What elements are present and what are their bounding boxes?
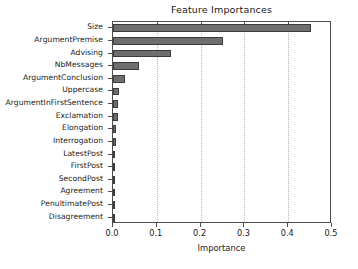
y-tick-label-size: Size	[87, 23, 103, 31]
plot-area	[112, 21, 331, 223]
y-tick-label-agreement: Agreement	[60, 187, 103, 195]
bar-interrogation	[113, 138, 116, 146]
bar-row	[113, 189, 330, 197]
bar-penultimatepost	[113, 201, 115, 209]
bar-uppercase	[113, 88, 119, 96]
bars-layer	[113, 22, 330, 222]
bar-elongation	[113, 125, 116, 133]
x-tick-label-0.3: 0.3	[237, 228, 250, 238]
x-tick-mark	[200, 223, 201, 227]
bar-advising	[113, 50, 171, 58]
bar-argumentpremise	[113, 37, 223, 45]
bar-row	[113, 201, 330, 209]
bar-row	[113, 163, 330, 171]
x-tick-mark-top	[288, 22, 289, 25]
feature-importances-figure: Feature Importances SizeArgumentPremiseA…	[0, 0, 358, 269]
y-tick-label-latestpost: LatestPost	[63, 150, 103, 158]
x-tick-label-0.1: 0.1	[149, 228, 162, 238]
y-axis-labels: SizeArgumentPremiseAdvisingNbMessagesArg…	[0, 21, 108, 223]
bar-secondpost	[113, 176, 115, 184]
x-tick-mark	[112, 223, 113, 227]
x-tick-mark-top	[201, 22, 202, 25]
y-tick-label-elongation: Elongation	[62, 124, 103, 132]
x-tick-mark-top	[157, 22, 158, 25]
bar-row	[113, 100, 330, 108]
bar-row	[113, 125, 330, 133]
y-tick-label-argumentconclusion: ArgumentConclusion	[23, 74, 103, 82]
bar-agreement	[113, 189, 115, 197]
x-axis-label: Importance	[112, 243, 331, 253]
y-tick-label-interrogation: Interrogation	[53, 137, 103, 145]
bar-row	[113, 75, 330, 83]
bar-firstpost	[113, 163, 115, 171]
y-tick-label-argumentinfirstsentence: ArgumentInFirstSentence	[6, 99, 103, 107]
bar-row	[113, 138, 330, 146]
x-tick-mark	[243, 223, 244, 227]
bar-row	[113, 176, 330, 184]
bar-row	[113, 214, 330, 222]
bar-row	[113, 37, 330, 45]
x-tick-label-0.2: 0.2	[193, 228, 206, 238]
y-tick-label-penultimatepost: PenultimatePost	[41, 200, 103, 208]
bar-exclamation	[113, 113, 118, 121]
y-tick-label-argumentpremise: ArgumentPremise	[34, 36, 103, 44]
bar-latestpost	[113, 151, 115, 159]
bar-row	[113, 88, 330, 96]
bar-nbmessages	[113, 62, 139, 70]
y-tick-label-firstpost: FirstPost	[71, 162, 103, 170]
x-tick-label-0.5: 0.5	[324, 228, 337, 238]
y-tick-label-nbmessages: NbMessages	[55, 61, 103, 69]
x-tick-mark	[156, 223, 157, 227]
x-tick-mark-top	[244, 22, 245, 25]
bar-row	[113, 62, 330, 70]
x-tick-label-0.0: 0.0	[105, 228, 118, 238]
y-tick-label-exclamation: Exclamation	[56, 112, 103, 120]
x-tick-label-0.4: 0.4	[281, 228, 294, 238]
y-tick-label-secondpost: SecondPost	[59, 175, 103, 183]
y-tick-label-uppercase: Uppercase	[62, 86, 103, 94]
x-tick-mark	[331, 223, 332, 227]
bar-size	[113, 24, 311, 32]
x-tick-mark	[287, 223, 288, 227]
y-tick-label-disagreement: Disagreement	[49, 213, 103, 221]
chart-title: Feature Importances	[112, 4, 331, 15]
bar-argumentconclusion	[113, 75, 125, 83]
bar-row	[113, 50, 330, 58]
bar-row	[113, 151, 330, 159]
y-tick-label-advising: Advising	[70, 49, 103, 57]
bar-row	[113, 24, 330, 32]
bar-argumentinfirstsentence	[113, 100, 118, 108]
bar-row	[113, 113, 330, 121]
bar-disagreement	[113, 214, 115, 222]
